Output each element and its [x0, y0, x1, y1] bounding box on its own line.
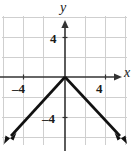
tick-label-x-negative-4: –4 [12, 82, 25, 95]
tick-label-x-positive-4: 4 [96, 82, 103, 95]
graph-screenshot: y x 4 –4 –4 4 [0, 0, 136, 151]
y-axis-label: y [60, 1, 66, 15]
coordinate-plane-svg [0, 0, 136, 151]
tick-label-y-positive-4: 4 [50, 32, 57, 45]
x-axis-label: x [124, 66, 130, 80]
tick-label-y-negative-4: –4 [42, 112, 55, 125]
